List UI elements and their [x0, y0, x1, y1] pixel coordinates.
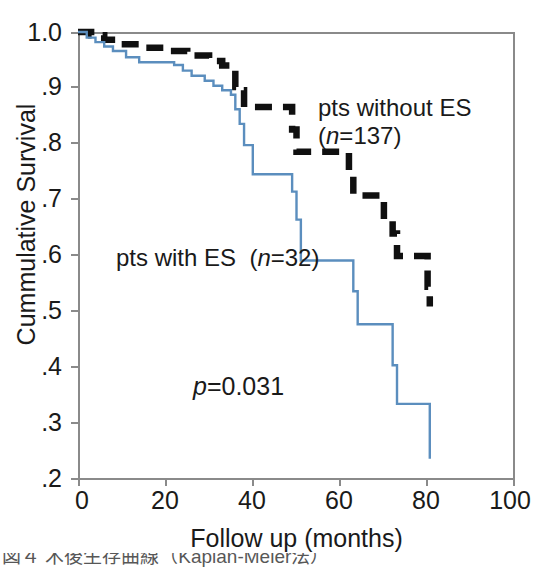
x-tick-label: 0 [75, 488, 89, 513]
y-tick-label: 1.0 [27, 20, 62, 45]
annotation-pts-without-es: pts without ES (n=137) [318, 94, 471, 151]
annotation-p-value: p=0.031 [193, 372, 284, 402]
y-tick-label: .2 [41, 466, 62, 491]
x-tick-label: 40 [238, 488, 266, 513]
x-tick-label: 80 [412, 488, 440, 513]
annotation-pts-with-es: pts with ES (n=32) [116, 244, 319, 272]
y-tick-label: .7 [41, 186, 62, 211]
y-tick-label: .3 [41, 410, 62, 435]
x-tick-label: 60 [325, 488, 353, 513]
y-axis-title-text: Cummulative Survival [13, 103, 42, 345]
kaplan-meier-survival-figure: Cummulative Survival .2 .3 .4 .5 .6 .7 .… [0, 0, 547, 567]
y-tick-label: .6 [41, 242, 62, 267]
cropped-caption-strip: 図４ 术後生存曲線（Kaplan-Meier法） [0, 553, 547, 567]
x-tick-label: 20 [151, 488, 179, 513]
annotation-with-es-n: 32 [285, 244, 312, 271]
y-tick-label: .9 [41, 74, 62, 99]
annotation-without-es-line2: (n=137) [318, 122, 471, 150]
annotation-without-es-n: 137 [353, 122, 393, 149]
cropped-caption-text: 図４ 术後生存曲線（Kaplan-Meier法） [2, 553, 329, 567]
y-tick-label: .4 [41, 354, 62, 379]
x-tick-label: 100 [489, 488, 531, 513]
p-value-number: 0.031 [222, 372, 285, 400]
plot-area: .2 .3 .4 .5 .6 .7 .8 .9 1.0 0 20 40 60 8… [78, 32, 515, 480]
x-axis-title: Follow up (months) [78, 524, 515, 553]
annotation-without-es-line1: pts without ES [318, 94, 471, 122]
y-tick-label: .5 [41, 298, 62, 323]
y-axis-title: Cummulative Survival [12, 0, 42, 448]
y-tick-label: .8 [41, 130, 62, 155]
